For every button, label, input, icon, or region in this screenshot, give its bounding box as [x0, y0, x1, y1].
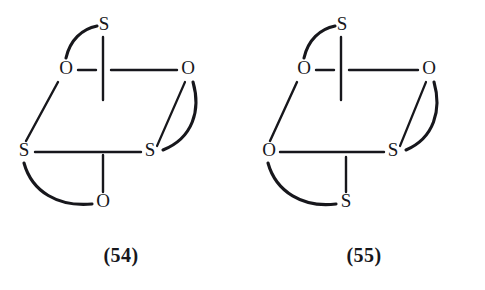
bond-upperleft-to-top-arc — [304, 26, 335, 58]
atom-label-upper-right: O — [422, 57, 436, 78]
atom-label-bottom: S — [341, 190, 352, 211]
atom-label-lower-right: S — [145, 139, 156, 160]
bond-upperright-to-lowerright-straight — [157, 82, 185, 146]
structure-55-caption: (55) — [243, 244, 485, 267]
chemical-structure-figure: S O O S S O (54) — [0, 0, 485, 290]
atom-label-lower-left: O — [262, 139, 276, 160]
bond-lowerleft-to-bottom-arc — [24, 163, 92, 204]
bond-upperleft-to-lowerleft — [270, 82, 297, 141]
atom-label-upper-left: O — [59, 57, 73, 78]
bond-upperleft-to-lowerleft — [26, 82, 58, 141]
atom-label-lower-right: S — [388, 139, 399, 160]
atom-label-upper-left: O — [297, 57, 311, 78]
atom-label-bottom: O — [96, 190, 110, 211]
structure-54: S O O S S O (54) — [0, 0, 242, 290]
atom-label-top: S — [337, 13, 348, 34]
atom-label-lower-left: S — [19, 139, 30, 160]
structure-54-drawing: S O O S S O — [0, 0, 242, 240]
atom-label-top: S — [99, 13, 110, 34]
structure-55: S O O O S S (55) — [243, 0, 485, 290]
bond-upperright-to-lowerright-straight — [400, 82, 426, 146]
structure-55-drawing: S O O O S S — [243, 0, 485, 240]
bond-upperleft-to-top-arc — [66, 26, 97, 58]
atom-label-upper-right: O — [181, 57, 195, 78]
structure-54-caption: (54) — [0, 244, 242, 267]
bond-lowerleft-to-bottom-arc — [268, 163, 336, 205]
